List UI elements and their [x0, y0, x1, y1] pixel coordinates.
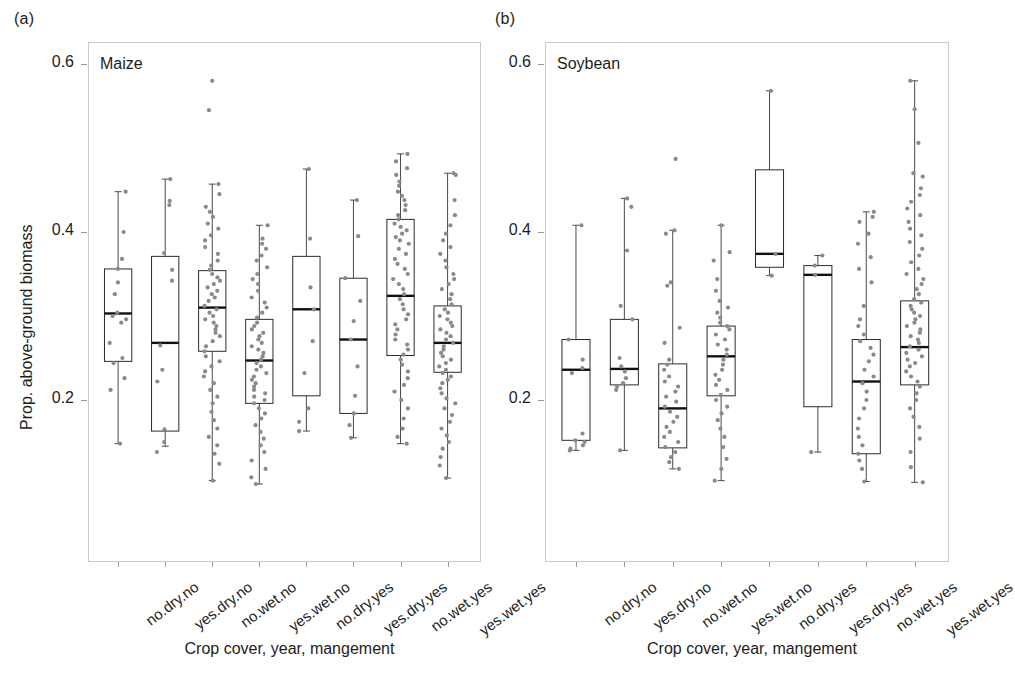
data-point — [580, 366, 584, 370]
data-point — [570, 371, 574, 375]
y-tick-label: 0.4 — [30, 221, 74, 239]
data-point — [215, 275, 219, 279]
data-point — [860, 381, 864, 385]
data-point — [454, 173, 458, 177]
data-point — [400, 194, 404, 198]
data-point — [449, 292, 453, 296]
data-point — [403, 267, 407, 271]
data-point — [912, 311, 916, 315]
data-point — [403, 203, 407, 207]
data-point — [256, 337, 260, 341]
data-point — [108, 341, 112, 345]
data-point — [674, 157, 678, 161]
data-point — [725, 348, 729, 352]
data-point — [617, 356, 621, 360]
data-point — [728, 250, 732, 254]
data-point — [871, 353, 875, 357]
data-point — [621, 381, 625, 385]
data-point — [122, 230, 126, 234]
data-point — [258, 430, 262, 434]
data-point — [581, 443, 585, 447]
data-point — [443, 258, 447, 262]
data-point — [449, 358, 453, 362]
data-point — [447, 440, 451, 444]
data-point — [405, 342, 409, 346]
data-point — [217, 192, 221, 196]
data-point — [624, 376, 628, 380]
data-point — [444, 331, 448, 335]
data-point — [215, 289, 219, 293]
data-point — [124, 190, 128, 194]
data-point — [809, 450, 813, 454]
data-point — [856, 242, 860, 246]
data-point — [356, 234, 360, 238]
data-point — [910, 307, 914, 311]
data-point — [406, 312, 410, 316]
data-point — [256, 282, 260, 286]
data-point — [262, 398, 266, 402]
data-point — [669, 455, 673, 459]
data-point — [716, 418, 720, 422]
data-point — [919, 233, 923, 237]
data-point — [674, 400, 678, 404]
data-point — [259, 443, 263, 447]
data-point — [308, 285, 312, 289]
data-point — [915, 379, 919, 383]
data-point — [265, 265, 269, 269]
data-point — [721, 358, 725, 362]
data-point — [211, 401, 215, 405]
data-point — [260, 311, 264, 315]
data-point — [218, 359, 222, 363]
data-point — [160, 368, 164, 372]
data-point — [404, 317, 408, 321]
data-point — [813, 273, 817, 277]
data-point — [259, 416, 263, 420]
data-point — [444, 476, 448, 480]
data-point — [911, 171, 915, 175]
data-point — [921, 174, 925, 178]
data-point — [441, 348, 445, 352]
data-point — [451, 272, 455, 276]
data-point — [917, 253, 921, 257]
data-point — [211, 339, 215, 343]
data-point — [719, 223, 723, 227]
data-point — [868, 346, 872, 350]
data-point — [405, 228, 409, 232]
data-point — [678, 326, 682, 330]
data-point — [251, 277, 255, 281]
data-point — [673, 390, 677, 394]
data-point — [725, 388, 729, 392]
data-point — [857, 458, 861, 462]
data-point — [448, 420, 452, 424]
y-tick-label: 0.6 — [487, 53, 531, 71]
data-point — [212, 282, 216, 286]
data-point — [664, 232, 668, 236]
data-point — [397, 180, 401, 184]
data-point — [712, 258, 716, 262]
data-point — [401, 426, 405, 430]
data-point — [256, 289, 260, 293]
data-point — [920, 354, 924, 358]
data-point — [904, 369, 908, 373]
y-tick-mark — [81, 400, 87, 401]
data-point — [155, 379, 159, 383]
data-point — [568, 448, 572, 452]
data-point — [202, 374, 206, 378]
data-point — [216, 258, 220, 262]
data-point — [216, 182, 220, 186]
data-point — [302, 371, 306, 375]
data-point — [913, 361, 917, 365]
data-point — [769, 89, 773, 93]
data-point — [447, 282, 451, 286]
data-point — [719, 467, 723, 471]
data-point — [349, 337, 353, 341]
data-point — [856, 426, 860, 430]
data-point — [667, 374, 671, 378]
data-point — [352, 319, 356, 323]
data-point — [906, 358, 910, 362]
x-tick-mark — [259, 562, 260, 567]
data-point — [250, 327, 254, 331]
data-point — [908, 227, 912, 231]
data-point — [719, 411, 723, 415]
data-point — [450, 324, 454, 328]
